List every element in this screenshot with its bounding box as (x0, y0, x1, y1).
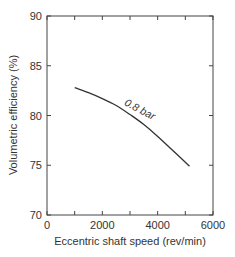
plot-border (47, 16, 213, 215)
y-axis-title: Volumetric efficiency (%) (7, 55, 19, 175)
x-tick-label: 0 (44, 219, 50, 231)
x-tick-label: 2000 (90, 219, 114, 231)
axis-tick-labels: 02000400060007075808590 (30, 10, 225, 231)
volumetric-efficiency-chart: 02000400060007075808590 0.8 bar Eccentri… (0, 0, 235, 257)
axis-ticks (47, 16, 213, 215)
series-annotations: 0.8 bar (123, 96, 158, 122)
y-tick-label: 75 (30, 159, 42, 171)
y-tick-label: 70 (30, 209, 42, 221)
x-tick-label: 6000 (201, 219, 225, 231)
y-tick-label: 80 (30, 110, 42, 122)
y-tick-label: 85 (30, 60, 42, 72)
x-tick-label: 4000 (145, 219, 169, 231)
y-tick-label: 90 (30, 10, 42, 22)
series-label: 0.8 bar (123, 96, 158, 122)
plot-frame (47, 16, 213, 215)
x-axis-title: Eccentric shaft speed (rev/min) (54, 235, 206, 247)
